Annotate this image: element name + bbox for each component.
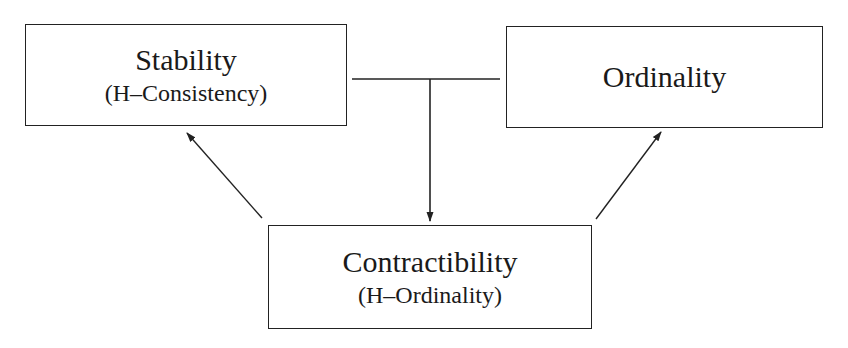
node-stability: Stability (H–Consistency) (25, 24, 347, 126)
node-contractibility: Contractibility (H–Ordinality) (268, 225, 592, 329)
arrow-to-stability (187, 133, 262, 218)
node-ordinality: Ordinality (506, 26, 823, 128)
arrow-to-ordinality (596, 132, 661, 219)
node-contractibility-subtitle: (H–Ordinality) (358, 280, 502, 310)
node-ordinality-title: Ordinality (603, 59, 726, 95)
node-contractibility-title: Contractibility (343, 244, 518, 280)
joined-connector (352, 79, 500, 221)
node-stability-subtitle: (H–Consistency) (105, 78, 268, 108)
node-stability-title: Stability (135, 42, 237, 78)
